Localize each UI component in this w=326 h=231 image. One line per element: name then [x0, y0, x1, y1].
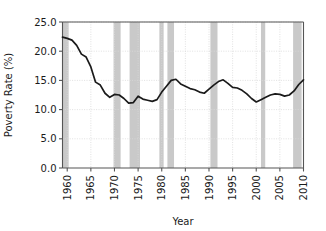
x-axis-title: Year	[171, 216, 194, 227]
y-axis-tick-label: 5.0	[41, 133, 57, 144]
poverty-rate-chart: 0.05.010.015.020.025.0 19601965197019751…	[0, 0, 326, 231]
chart-canvas: 0.05.010.015.020.025.0 19601965197019751…	[0, 0, 326, 231]
shaded-recession-bands	[63, 22, 302, 168]
x-axis-ticks: 1960196519701975198019851990199520002005…	[62, 168, 309, 200]
x-axis-tick-label: 2000	[251, 175, 262, 200]
recession-band	[293, 22, 302, 168]
y-axis-tick-label: 25.0	[34, 17, 56, 28]
recession-band	[261, 22, 265, 168]
x-axis-tick-label: 2010	[298, 175, 309, 200]
y-axis-ticks: 0.05.010.015.020.025.0	[34, 17, 62, 174]
data-line-poverty-rate	[63, 37, 304, 103]
recession-band	[167, 22, 174, 168]
y-axis-tick-label: 20.0	[34, 46, 56, 57]
x-axis-tick-label: 1985	[180, 175, 191, 200]
x-axis-tick-label: 2005	[274, 175, 285, 200]
x-axis-tick-label: 1990	[204, 175, 215, 200]
grid-lines	[63, 22, 304, 168]
x-axis-tick-label: 1980	[156, 175, 167, 200]
poverty-rate-line	[63, 37, 304, 103]
y-axis-title: Poverty Rate (%)	[3, 53, 14, 138]
x-axis-tick-label: 1970	[109, 175, 120, 200]
y-axis-tick-label: 0.0	[41, 163, 57, 174]
y-axis-tick-label: 15.0	[34, 75, 56, 86]
x-axis-tick-label: 1965	[85, 175, 96, 200]
y-axis-tick-label: 10.0	[34, 104, 56, 115]
recession-band	[63, 22, 69, 168]
x-axis-tick-label: 1995	[227, 175, 238, 200]
x-axis-tick-label: 1975	[133, 175, 144, 200]
plot-frame	[63, 22, 304, 168]
x-axis-tick-label: 1960	[62, 175, 73, 200]
recession-band	[210, 22, 217, 168]
